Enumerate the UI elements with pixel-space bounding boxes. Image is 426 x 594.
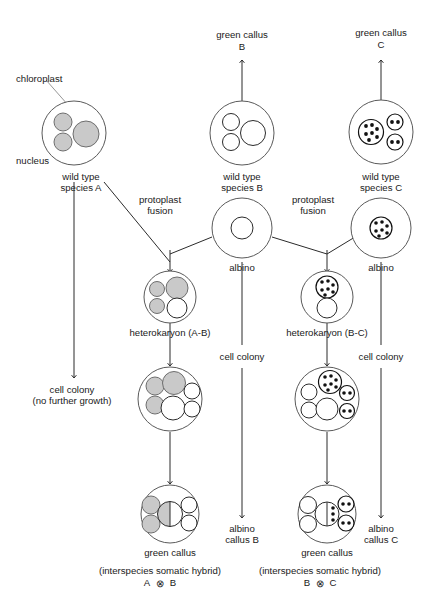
label-wild-type-b-line2: species B bbox=[221, 182, 263, 193]
cell-colony-ab bbox=[138, 367, 202, 431]
callus-bc-chloroplast-2 bbox=[300, 516, 317, 533]
nucleus-bc-from-b bbox=[317, 298, 337, 318]
label-cell-colony-c: cell colony bbox=[359, 351, 404, 362]
caption-bc-right: C bbox=[330, 577, 337, 588]
label-heterokaryon-bc: heterokaryon (B-C) bbox=[286, 327, 368, 338]
cell-wild-type-species-c bbox=[349, 100, 413, 164]
label-albino-callus-c-line1: albino bbox=[368, 523, 394, 534]
colony-ab-chloroplast-1 bbox=[146, 377, 164, 395]
cell-green-callus-bc bbox=[298, 485, 356, 543]
chloroplast-a-2 bbox=[54, 133, 72, 151]
callus-bc-chloroplast-3 bbox=[338, 496, 354, 512]
label-cell-colony-b: cell colony bbox=[220, 351, 265, 362]
colony-ab-chloroplast-4 bbox=[184, 401, 200, 417]
label-wild-type-a-line2: species A bbox=[60, 182, 102, 193]
caption-hybrid-bc-line1: (interspecies somatic hybrid) bbox=[259, 565, 381, 576]
label-protoplast-fusion-ab-line1: protoplast bbox=[139, 194, 181, 205]
label-nucleus: nucleus bbox=[16, 155, 49, 166]
colony-bc-nucleus-c bbox=[319, 371, 342, 394]
label-chloroplast: chloroplast bbox=[16, 73, 63, 84]
chloroplast-a-1 bbox=[54, 113, 72, 131]
chloroplast-ab-2 bbox=[150, 299, 165, 314]
label-albino-callus-c-line2: callus C bbox=[364, 534, 398, 545]
cell-heterokaryon-bc bbox=[301, 271, 353, 323]
callus-bc-fused-nucleus bbox=[315, 502, 339, 526]
callus-ab-chloroplast-4 bbox=[181, 515, 197, 531]
colony-bc-chloroplast-b1 bbox=[301, 384, 317, 400]
colony-bc-chloroplast-b2 bbox=[301, 402, 317, 418]
caption-hybrid-ab-line2: A ⊗ B bbox=[144, 577, 176, 589]
chloroplast-b-1 bbox=[223, 114, 240, 131]
label-wild-type-c-line1: wild type bbox=[361, 171, 399, 182]
label-albino-callus-b-line2: callus B bbox=[225, 534, 259, 545]
nucleus-ab-from-a bbox=[166, 277, 188, 299]
caption-hybrid-ab-line1: (interspecies somatic hybrid) bbox=[99, 565, 221, 576]
label-green-callus-b-line1: green callus bbox=[216, 29, 268, 40]
cell-albino-b bbox=[212, 198, 272, 258]
nucleus-bc-from-c bbox=[316, 276, 338, 298]
cell-heterokaryon-ab bbox=[144, 271, 196, 323]
label-cell-colony-a-line1: cell colony bbox=[50, 384, 95, 395]
fusion-line-from-albino-b-right bbox=[272, 237, 327, 254]
chloroplast-c-1 bbox=[387, 114, 403, 130]
caption-ab-right: B bbox=[170, 577, 176, 588]
label-wild-type-c-line2: species C bbox=[360, 182, 402, 193]
label-green-callus-bc: green callus bbox=[301, 547, 353, 558]
label-protoplast-fusion-bc-line1: protoplast bbox=[292, 194, 334, 205]
cell-wild-type-species-b bbox=[210, 101, 274, 165]
label-protoplast-fusion-bc-line2: fusion bbox=[300, 205, 326, 216]
label-green-callus-ab: green callus bbox=[144, 547, 196, 558]
caption-ab-left: A bbox=[144, 577, 151, 588]
label-protoplast-fusion-ab-line2: fusion bbox=[147, 205, 173, 216]
nucleus-albino-b bbox=[231, 217, 253, 239]
callus-bc-chloroplast-4 bbox=[338, 515, 354, 531]
cell-wild-type-species-a bbox=[42, 101, 106, 165]
caption-ab-symbol: ⊗ bbox=[156, 578, 164, 589]
fusion-line-from-albino-b-left bbox=[170, 237, 212, 254]
caption-bc-symbol: ⊗ bbox=[316, 578, 324, 589]
label-albino-callus-b-line1: albino bbox=[229, 523, 255, 534]
colony-ab-chloroplast-3 bbox=[184, 383, 200, 399]
colony-ab-nucleus-b bbox=[161, 396, 185, 420]
cell-green-callus-ab bbox=[141, 485, 199, 543]
label-wild-type-b-line1: wild type bbox=[222, 171, 260, 182]
cell-albino-c bbox=[351, 198, 411, 258]
label-green-callus-c-line2: C bbox=[378, 39, 385, 50]
label-green-callus-c-line1: green callus bbox=[355, 27, 407, 38]
callus-bc-chloroplast-1 bbox=[300, 497, 317, 514]
cell-colony-bc bbox=[295, 367, 359, 431]
label-wild-type-a-line1: wild type bbox=[61, 171, 99, 182]
label-albino-b: albino bbox=[229, 262, 255, 273]
label-cell-colony-a-line2: (no further growth) bbox=[33, 395, 112, 406]
caption-bc-left: B bbox=[304, 577, 310, 588]
label-heterokaryon-ab: heterokaryon (A-B) bbox=[129, 327, 210, 338]
chloroplast-b-2 bbox=[223, 134, 240, 151]
chloroplast-c-2 bbox=[387, 134, 403, 150]
callus-ab-chloroplast-2 bbox=[142, 515, 160, 533]
nucleus-albino-c bbox=[370, 217, 392, 239]
label-green-callus-b-line2: B bbox=[239, 41, 245, 52]
callus-ab-chloroplast-3 bbox=[181, 497, 197, 513]
colony-ab-nucleus-a bbox=[163, 372, 186, 395]
colony-bc-chloroplast-c1 bbox=[340, 386, 355, 401]
fusion-line-from-albino-c bbox=[327, 237, 355, 254]
nucleus-ab-from-b bbox=[167, 298, 187, 318]
chloroplast-ab-1 bbox=[150, 282, 165, 297]
caption-hybrid-bc-line2: B ⊗ C bbox=[304, 577, 337, 589]
colony-bc-chloroplast-c2 bbox=[340, 404, 355, 419]
colony-bc-nucleus-b bbox=[316, 398, 338, 420]
nucleus-a bbox=[73, 121, 99, 147]
label-albino-c: albino bbox=[368, 262, 394, 273]
protoplast-fusion-diagram: chloroplast nucleus wild type species A … bbox=[0, 0, 426, 594]
nucleus-b bbox=[241, 121, 266, 146]
diagram-canvas: chloroplast nucleus wild type species A … bbox=[0, 0, 426, 594]
